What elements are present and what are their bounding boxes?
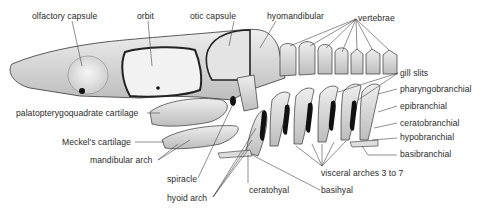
orbit-shape: [122, 47, 201, 97]
label-palatopterygoquadrate-cartilage: palatopterygoquadrate cartilage: [16, 108, 138, 118]
spiracle-shape: [230, 96, 236, 106]
label-mandibular-arch: mandibular arch: [90, 155, 152, 165]
label-hyoid-arch: hyoid arch: [167, 193, 207, 203]
label-spiracle: spiracle: [167, 174, 197, 184]
label-hyomandibular: hyomandibular: [267, 11, 324, 21]
label-otic-capsule: otic capsule: [190, 11, 236, 21]
label-pharyngobranchial: pharyngobranchial: [400, 84, 472, 94]
label-orbit: orbit: [137, 11, 154, 21]
label-epibranchial: epibranchial: [400, 101, 447, 111]
label-hypobranchial: hypobranchial: [400, 132, 454, 142]
palatopterygoquadrate-shape: [150, 99, 227, 127]
olfactory-capsule-shape: [68, 56, 108, 94]
hyomandibular-shape: [237, 75, 258, 111]
label-ceratohyal: ceratohyal: [249, 185, 289, 195]
vertebrae-shapes: [280, 42, 397, 76]
shark-skull-diagram: olfactory capsule orbit otic capsule hyo…: [0, 0, 485, 212]
label-olfactory-capsule: olfactory capsule: [32, 11, 97, 21]
label-meckels-cartilage: Meckel's cartilage: [62, 137, 131, 147]
label-basihyal: basihyal: [321, 185, 353, 195]
meckels-cartilage-shape: [162, 126, 238, 149]
label-gill-slits: gill slits: [400, 68, 428, 78]
label-ceratobranchial: ceratobranchial: [400, 118, 460, 128]
label-vertebrae: vertebrae: [358, 13, 395, 23]
label-basibranchial: basibranchial: [400, 149, 451, 159]
basibranchial-shape: [350, 140, 378, 147]
label-visceral-arches: visceral arches 3 to 7: [321, 168, 403, 178]
